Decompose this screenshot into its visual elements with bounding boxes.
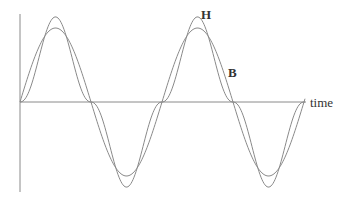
time-axis-label: time	[310, 96, 333, 109]
diagram-canvas	[0, 0, 349, 201]
h-curve-label: H	[201, 8, 211, 21]
b-curve-label: B	[228, 66, 237, 79]
